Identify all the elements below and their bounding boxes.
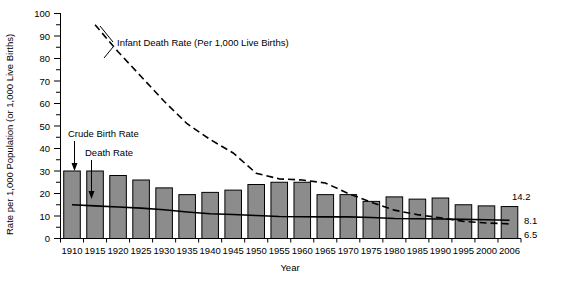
- x-tick-1960: 1960: [292, 245, 313, 256]
- x-tick-1935: 1935: [177, 245, 198, 256]
- y-tick-80: 80: [39, 53, 50, 64]
- bar-1940: [202, 192, 219, 238]
- bar-1955: [271, 182, 288, 238]
- bar-1935: [179, 195, 196, 239]
- bar-1950: [248, 185, 265, 239]
- bar-1975: [363, 201, 380, 238]
- bar-1960: [294, 182, 311, 238]
- crude-birth-rate-annotation: Crude Birth Rate: [68, 128, 139, 139]
- x-tick-1980: 1980: [384, 245, 405, 256]
- x-axis-tick-labels: 1910191519201925193019351940194519501955…: [61, 245, 520, 256]
- x-tick-1975: 1975: [361, 245, 382, 256]
- x-tick-1985: 1985: [407, 245, 428, 256]
- x-tick-1930: 1930: [154, 245, 175, 256]
- x-tick-1955: 1955: [269, 245, 290, 256]
- crude-birth-rate-arrow: [72, 141, 78, 171]
- bar-1915: [87, 171, 104, 239]
- chart-container: Rate per 1,000 Population (or 1,000 Live…: [0, 0, 568, 285]
- bars-layer: [64, 171, 518, 239]
- y-tick-40: 40: [39, 143, 50, 154]
- x-tick-1995: 1995: [453, 245, 474, 256]
- y-axis-tick-labels: 100 90 80 70 60 50 40 30 20 10 0: [34, 8, 50, 244]
- y-axis-title: Rate per 1,000 Population (or 1,000 Live…: [4, 34, 15, 235]
- y-tick-90: 90: [39, 31, 50, 42]
- y-tick-10: 10: [39, 211, 50, 222]
- y-tick-50: 50: [39, 121, 50, 132]
- x-tick-1950: 1950: [246, 245, 267, 256]
- y-tick-100: 100: [34, 8, 50, 19]
- bar-2006: [501, 207, 518, 239]
- x-tick-1965: 1965: [315, 245, 336, 256]
- x-tick-2006: 2006: [499, 245, 520, 256]
- x-tick-1915: 1915: [84, 245, 105, 256]
- x-tick-2000: 2000: [476, 245, 497, 256]
- y-tick-30: 30: [39, 166, 50, 177]
- infant-death-rate-annotation: Infant Death Rate (Per 1,000 Live Births…: [117, 37, 289, 48]
- x-tick-1925: 1925: [131, 245, 152, 256]
- x-tick-1910: 1910: [61, 245, 82, 256]
- y-tick-60: 60: [39, 98, 50, 109]
- end-label-infant-rate: 6.5: [524, 229, 537, 240]
- y-tick-0: 0: [45, 233, 50, 244]
- vital-statistics-chart: Rate per 1,000 Population (or 1,000 Live…: [0, 0, 568, 285]
- x-tick-1920: 1920: [107, 245, 128, 256]
- bar-1930: [156, 188, 173, 239]
- y-tick-20: 20: [39, 188, 50, 199]
- x-tick-1945: 1945: [223, 245, 244, 256]
- y-tick-70: 70: [39, 76, 50, 87]
- end-label-death-rate: 8.1: [524, 215, 537, 226]
- x-tick-1990: 1990: [430, 245, 451, 256]
- x-tick-1940: 1940: [200, 245, 221, 256]
- death-rate-annotation: Death Rate: [85, 147, 133, 158]
- infant-label-leader-line: [100, 26, 113, 58]
- x-axis-title: Year: [280, 262, 299, 273]
- y-axis-ticks: [54, 14, 61, 239]
- end-label-birth-rate: 14.2: [512, 191, 531, 202]
- x-tick-1970: 1970: [338, 245, 359, 256]
- x-axis-ticks: [61, 239, 522, 243]
